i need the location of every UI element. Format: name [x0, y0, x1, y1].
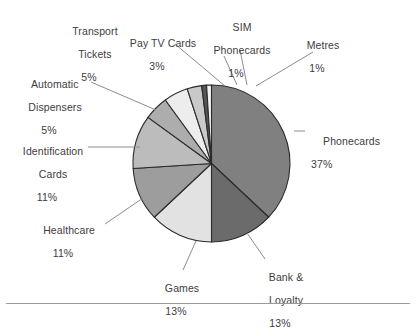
slice-label-metres: Metres 1%: [288, 28, 346, 98]
slice-label-line2: Tickets: [78, 48, 112, 60]
slice-label-sim-phonecards: SIM Phonecards 1%: [199, 10, 273, 103]
slice-label-line1: Healthcare: [43, 224, 95, 236]
leader-line-games: [183, 241, 196, 270]
slice-label-pct: 11%: [6, 192, 88, 204]
slice-label-pct: 3%: [117, 61, 197, 73]
slice-label-line2: Dispensers: [28, 101, 82, 113]
slice-label-phonecards: Phonecards 37%: [311, 124, 411, 194]
slice-label-pct: 37%: [311, 159, 411, 171]
slice-label-line1: SIM: [233, 21, 252, 33]
slice-label-line2: Phonecards: [214, 44, 271, 56]
slice-label-line1: Games: [165, 282, 199, 294]
slice-label-pct: 1%: [199, 68, 273, 80]
slice-label-bank-loyalty: Bank & Loyalty 13%: [244, 260, 316, 331]
slice-label-line1: Transport: [72, 25, 117, 37]
bottom-divider: [6, 303, 410, 304]
slice-label-games: Games 13%: [141, 271, 211, 331]
slice-label-pct: 11%: [22, 248, 104, 260]
slice-label-healthcare: Healthcare 11%: [22, 213, 104, 283]
slice-label-pct: 13%: [244, 318, 316, 330]
slice-label-line2: Cards: [39, 168, 68, 180]
slice-label-line1: Phonecards: [323, 135, 380, 147]
slice-label-pct: 13%: [141, 306, 211, 318]
slice-label-line1: Pay TV Cards: [130, 37, 196, 49]
slice-label-pct: 1%: [288, 63, 346, 75]
pie-slices-group: [133, 85, 290, 242]
slice-label-line1: Automatic: [31, 78, 79, 90]
slice-label-line1: Identification: [23, 145, 83, 157]
leader-line-bank-loyalty: [247, 233, 265, 259]
slice-label-line1: Bank &: [269, 271, 303, 283]
leader-line-healthcare: [105, 198, 143, 224]
slice-label-line1: Metres: [307, 39, 340, 51]
slice-label-pay-tv-cards: Pay TV Cards 3%: [117, 26, 197, 96]
